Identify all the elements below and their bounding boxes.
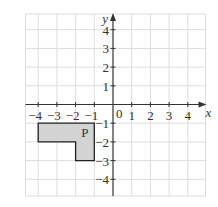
x-tick-label: −3 <box>47 108 61 123</box>
x-tick-label: 1 <box>128 108 135 123</box>
y-tick-label: 3 <box>103 41 110 56</box>
y-tick-label: −3 <box>95 154 109 169</box>
y-tick-label: 1 <box>103 79 110 94</box>
x-tick-label: −4 <box>28 108 42 123</box>
origin-label: 0 <box>116 106 123 121</box>
x-axis-label: x <box>205 105 212 120</box>
x-tick-label: 3 <box>166 108 173 123</box>
x-tick-label: 2 <box>147 108 154 123</box>
y-tick-label: 2 <box>103 60 110 75</box>
y-tick-label: −4 <box>95 172 109 187</box>
y-axis-label: y <box>100 11 108 26</box>
y-tick-label: −2 <box>95 135 109 150</box>
coordinate-grid: P −4−3−2−112344321−1−2−3−40xy <box>0 0 218 207</box>
x-tick-label: 4 <box>185 108 192 123</box>
x-tick-label: −2 <box>66 108 80 123</box>
shapes-layer: P <box>38 123 94 160</box>
axes <box>26 13 207 196</box>
y-tick-label: −1 <box>95 116 109 131</box>
shape-label: P <box>81 125 88 140</box>
